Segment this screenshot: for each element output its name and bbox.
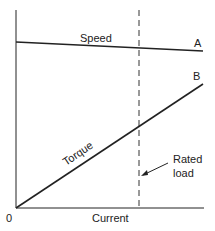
x-axis-label: Current xyxy=(92,212,129,224)
torque-curve xyxy=(16,84,203,208)
origin-label: 0 xyxy=(6,212,12,224)
series-b-label: B xyxy=(193,70,200,82)
speed-label: Speed xyxy=(80,32,112,44)
torque-label: Torque xyxy=(60,139,95,168)
rated-label-2: load xyxy=(173,167,194,179)
speed-torque-diagram: Speed A B Torque Rated load 0 Current xyxy=(0,0,215,231)
rated-label-1: Rated xyxy=(173,153,202,165)
series-a-label: A xyxy=(194,37,202,49)
arrowhead-icon xyxy=(141,170,148,176)
